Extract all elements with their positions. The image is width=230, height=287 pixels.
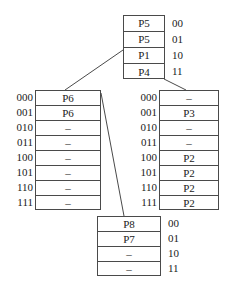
left-key-110: 110: [0, 180, 33, 195]
left-cell-100: –: [36, 151, 100, 166]
left-cell-101: –: [36, 166, 100, 181]
root-directory-table: P5 P5 P1 P4: [123, 15, 165, 79]
right-key-010: 010: [130, 120, 157, 135]
left-cell-001: P6: [36, 106, 100, 121]
right-key-111: 111: [130, 195, 157, 210]
left-key-101: 101: [0, 165, 33, 180]
left-cell-000: P6: [36, 91, 100, 106]
left-cell-011: –: [36, 136, 100, 151]
left-directory-table: P6 P6 – – – – – –: [35, 90, 101, 210]
bottom-directory-table: P8 P7 – –: [97, 216, 161, 276]
bottom-cell-00: P8: [98, 217, 160, 232]
root-directory-keys: 00 01 10 11: [172, 15, 202, 79]
bottom-key-00: 00: [168, 216, 198, 231]
right-cell-010: –: [160, 121, 218, 136]
right-key-101: 101: [130, 165, 157, 180]
bottom-cell-01: P7: [98, 232, 160, 247]
right-key-001: 001: [130, 105, 157, 120]
root-key-10: 10: [172, 47, 202, 63]
edge-root-to-right: [164, 79, 186, 90]
root-key-11: 11: [172, 63, 202, 79]
edge-root-to-left: [65, 50, 123, 90]
left-key-100: 100: [0, 150, 33, 165]
left-key-010: 010: [0, 120, 33, 135]
bottom-cell-11: –: [98, 262, 160, 277]
right-key-011: 011: [130, 135, 157, 150]
edge-left-to-bottom: [101, 93, 124, 216]
root-cell-10: P1: [124, 48, 164, 64]
right-cell-001: P3: [160, 106, 218, 121]
bottom-key-01: 01: [168, 231, 198, 246]
bottom-key-11: 11: [168, 261, 198, 276]
right-cell-111: P2: [160, 196, 218, 211]
left-key-111: 111: [0, 195, 33, 210]
root-cell-11: P4: [124, 64, 164, 80]
right-cell-000: –: [160, 91, 218, 106]
right-directory-table: – P3 – – P2 P2 P2 P2: [159, 90, 219, 210]
right-cell-110: P2: [160, 181, 218, 196]
root-cell-01: P5: [124, 32, 164, 48]
right-directory-keys: 000 001 010 011 100 101 110 111: [130, 90, 157, 210]
left-cell-110: –: [36, 181, 100, 196]
bottom-cell-10: –: [98, 247, 160, 262]
left-cell-010: –: [36, 121, 100, 136]
right-key-110: 110: [130, 180, 157, 195]
bottom-key-10: 10: [168, 246, 198, 261]
left-key-011: 011: [0, 135, 33, 150]
right-cell-100: P2: [160, 151, 218, 166]
right-cell-101: P2: [160, 166, 218, 181]
left-cell-111: –: [36, 196, 100, 211]
right-key-100: 100: [130, 150, 157, 165]
root-cell-00: P5: [124, 16, 164, 32]
left-directory-keys: 000 001 010 011 100 101 110 111: [0, 90, 33, 210]
root-key-00: 00: [172, 15, 202, 31]
right-cell-011: –: [160, 136, 218, 151]
left-key-001: 001: [0, 105, 33, 120]
left-key-000: 000: [0, 90, 33, 105]
root-key-01: 01: [172, 31, 202, 47]
right-key-000: 000: [130, 90, 157, 105]
bottom-directory-keys: 00 01 10 11: [168, 216, 198, 276]
